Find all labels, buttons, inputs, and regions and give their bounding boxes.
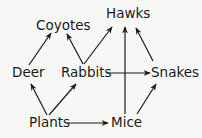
- arrow-plants-to-rabbits: [49, 84, 76, 115]
- node-coyotes: Coyotes: [36, 19, 91, 33]
- arrow-deer-to-coyotes: [29, 33, 51, 65]
- node-plants: Plants: [29, 116, 70, 130]
- food-web-diagram: Hawks Coyotes Deer Rabbits Snakes Plants…: [0, 0, 202, 138]
- arrow-mice-to-snakes: [137, 84, 156, 114]
- node-deer: Deer: [12, 66, 45, 80]
- node-snakes: Snakes: [151, 66, 199, 80]
- node-hawks: Hawks: [106, 7, 150, 21]
- node-rabbits: Rabbits: [61, 66, 112, 80]
- arrow-snakes-to-hawks: [136, 28, 153, 61]
- arrow-plants-to-deer: [31, 84, 47, 115]
- arrow-rabbits-to-coyotes: [67, 34, 83, 64]
- node-mice: Mice: [111, 116, 142, 130]
